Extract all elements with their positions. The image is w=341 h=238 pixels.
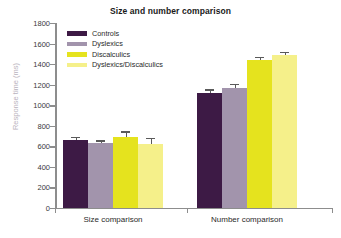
legend-item: Controls: [67, 28, 163, 39]
error-bar-cap: [146, 138, 155, 139]
bar: [63, 140, 88, 208]
y-tick-label: 1400: [16, 60, 50, 69]
legend-swatch: [67, 63, 87, 68]
legend-item: Dyslexics/Discalculics: [67, 60, 163, 71]
y-tick-label: 400: [16, 162, 50, 171]
y-tick-mark: [50, 167, 56, 168]
y-tick-mark: [50, 126, 56, 127]
legend-label: Discalculics: [92, 50, 130, 59]
y-tick-label: 1200: [16, 80, 50, 89]
error-bar-cap: [96, 140, 105, 141]
error-bar-cap: [280, 52, 289, 53]
chart-container: Size and number comparison Response time…: [0, 0, 341, 238]
legend-item: Dyslexics: [67, 39, 163, 50]
error-bar-cap: [255, 57, 264, 58]
y-axis-title: Response time (ms): [11, 42, 20, 152]
legend-swatch: [67, 52, 87, 57]
legend-swatch: [67, 31, 87, 36]
y-tick-label: 1000: [16, 101, 50, 110]
x-axis-tick: [187, 208, 188, 213]
x-axis-group-label: Number comparison: [211, 215, 283, 224]
error-bar-cap: [230, 84, 239, 85]
x-axis-tick: [332, 208, 333, 213]
y-tick-mark: [50, 105, 56, 106]
bar: [247, 60, 272, 208]
bar: [88, 143, 113, 208]
y-tick-mark: [50, 64, 56, 65]
y-tick-label: 200: [16, 183, 50, 192]
error-bar-cap: [71, 137, 80, 138]
bar: [272, 55, 297, 208]
chart-title: Size and number comparison: [0, 6, 341, 16]
legend-label: Dyslexics: [92, 39, 123, 48]
legend-swatch: [67, 42, 87, 47]
y-tick-label: 1600: [16, 39, 50, 48]
y-tick-label: 1800: [16, 19, 50, 28]
legend-label: Dyslexics/Discalculics: [92, 60, 163, 69]
y-tick-mark: [50, 85, 56, 86]
bar: [113, 137, 138, 208]
legend-label: Controls: [92, 29, 119, 38]
y-tick-label: 0: [16, 204, 50, 213]
y-tick-label: 600: [16, 142, 50, 151]
legend-item: Discalculics: [67, 49, 163, 60]
y-tick-mark: [50, 23, 56, 24]
bar: [197, 93, 222, 208]
y-axis-line: [55, 23, 57, 208]
chart-legend: ControlsDyslexicsDiscalculicsDyslexics/D…: [67, 28, 163, 70]
y-tick-mark: [50, 146, 56, 147]
x-axis-group-label: Size comparison: [83, 215, 142, 224]
error-bar-cap: [205, 89, 214, 90]
y-tick-mark: [50, 187, 56, 188]
error-bar-cap: [121, 131, 130, 132]
bar: [222, 88, 247, 208]
y-tick-label: 800: [16, 121, 50, 130]
x-axis-tick: [55, 208, 56, 213]
bar: [138, 144, 163, 208]
y-tick-mark: [50, 44, 56, 45]
